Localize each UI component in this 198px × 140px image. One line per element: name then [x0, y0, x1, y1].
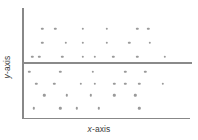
data-point	[94, 83, 96, 85]
data-point	[65, 94, 67, 96]
data-point	[144, 71, 146, 73]
data-point	[81, 28, 83, 30]
data-point	[136, 56, 138, 58]
x-axis-label: x-axis	[0, 124, 198, 134]
data-point	[81, 56, 83, 58]
scatter-plot-figure: x-axis y-axis	[0, 0, 198, 140]
data-point	[124, 83, 126, 85]
data-point	[138, 83, 140, 85]
data-point	[81, 42, 83, 44]
data-point	[33, 107, 35, 109]
data-point	[138, 107, 140, 109]
data-point	[75, 107, 77, 109]
data-point	[61, 56, 63, 58]
data-point	[43, 94, 45, 96]
data-point	[163, 56, 165, 58]
data-point	[113, 83, 115, 85]
data-point	[53, 83, 55, 85]
data-point	[112, 56, 114, 58]
data-point	[134, 94, 136, 96]
horizontal-reference-line	[22, 62, 192, 64]
data-point	[79, 83, 81, 85]
y-axis-suffix: -axis	[2, 56, 12, 74]
data-point	[59, 71, 61, 73]
data-point	[98, 107, 100, 109]
data-point	[106, 28, 108, 30]
x-axis-line	[22, 118, 190, 120]
data-point	[41, 42, 43, 44]
y-axis-label: y-axis	[2, 43, 12, 91]
data-point	[28, 71, 30, 73]
data-point	[90, 94, 92, 96]
x-axis-suffix: -axis	[92, 124, 110, 134]
data-point	[136, 28, 138, 30]
data-point	[35, 83, 37, 85]
data-point	[128, 42, 130, 44]
data-point	[94, 56, 96, 58]
data-point	[38, 56, 40, 58]
data-point	[59, 107, 61, 109]
data-point	[92, 71, 94, 73]
data-point	[106, 42, 108, 44]
data-point	[161, 83, 163, 85]
data-point	[147, 28, 149, 30]
data-point	[64, 42, 66, 44]
data-point	[54, 28, 56, 30]
data-point	[148, 42, 150, 44]
data-point	[31, 56, 33, 58]
data-point	[113, 94, 115, 96]
data-point	[41, 28, 43, 30]
y-axis-variable: y	[2, 74, 12, 78]
data-point	[124, 71, 126, 73]
